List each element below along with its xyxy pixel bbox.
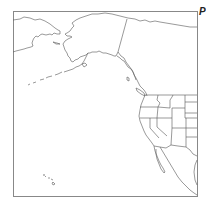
- hawaii-islands: [45, 176, 55, 185]
- alaska-coastline: [63, 13, 128, 62]
- alaska-peninsula: [64, 53, 88, 72]
- haida-gwaii: [127, 77, 129, 81]
- vancouver-island: [136, 88, 145, 96]
- state-lines: [140, 95, 197, 147]
- alaska-canada-border: [118, 19, 127, 52]
- st-lawrence-island: [53, 42, 60, 44]
- kodiak-island: [82, 63, 87, 67]
- mexico-gulf-coast: [194, 160, 197, 185]
- baja-california: [154, 146, 165, 173]
- map-canvas: [0, 0, 206, 212]
- us-west-coast: [139, 95, 154, 146]
- us-mexico-border: [154, 145, 197, 156]
- map: P: [0, 0, 206, 212]
- aleutian-islands: [28, 72, 62, 85]
- mexico-coastline: [160, 147, 197, 195]
- canada-arctic-coast: [128, 18, 197, 27]
- russia-coastline: [13, 17, 60, 52]
- hawaii-niihau: [44, 175, 45, 176]
- corner-label: P: [199, 7, 206, 17]
- bc-coastline: [117, 56, 147, 96]
